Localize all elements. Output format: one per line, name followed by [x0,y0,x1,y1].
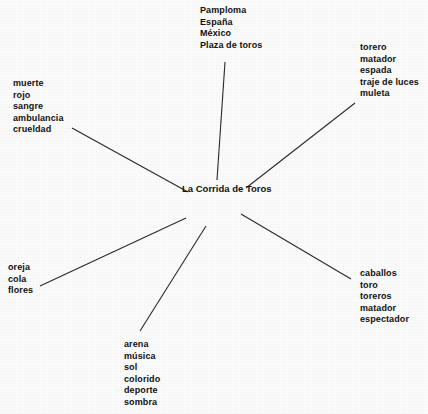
branch-term: música [124,351,160,363]
branch-term: sombra [124,397,160,409]
branch-term: cola [8,274,33,286]
branch-term: matador [360,54,419,66]
branch-term: arena [124,339,160,351]
branch-term: sangre [13,101,64,113]
branch-term: espectador [360,314,409,326]
branch-term: ambulancia [13,113,64,125]
spoke-line-top [217,62,225,180]
branch-term: flores [8,285,33,297]
spoke-line-bottom [140,226,206,331]
branch-term: torero [360,42,419,54]
branch-term: crueldad [13,124,64,136]
branch-term: sol [124,362,160,374]
branch-node-upper-right: torero matador espada traje de luces mul… [360,42,419,100]
branch-term: Pamploma [200,5,262,17]
branch-term: matador [360,303,409,315]
branch-term: traje de luces [360,77,419,89]
branch-term: caballos [360,268,409,280]
branch-term: Plaza de toros [200,40,262,52]
branch-term: deporte [124,385,160,397]
branch-term: oreja [8,262,33,274]
center-topic-node: La Corrida de Toros [182,183,246,195]
branch-node-upper-left: muerte rojo sangre ambulancia crueldad [13,78,64,136]
branch-node-lower-right: caballos toro toreros matador espectador [360,268,409,326]
spoke-line-lower-left [40,218,186,286]
branch-term: México [200,28,262,40]
branch-term: muerte [13,78,64,90]
branch-term: muleta [360,88,419,100]
center-topic-line: de [232,183,243,194]
branch-term: rojo [13,90,64,102]
branch-term: espada [360,65,419,77]
branch-term: España [200,17,262,29]
branch-node-lower-left: oreja cola flores [8,262,33,297]
branch-term: colorido [124,374,160,386]
branch-term: toro [360,280,409,292]
center-topic-line: La Corrida [182,183,230,194]
branch-term: toreros [360,291,409,303]
spoke-line-upper-right [246,103,355,188]
branch-node-top: Pamploma España México Plaza de toros [200,5,262,51]
branch-node-bottom: arena música sol colorido deporte sombra [124,339,160,409]
spoke-line-upper-left [72,128,188,192]
spider-diagram-canvas: Pamploma España México Plaza de toros to… [0,0,428,414]
spoke-line-lower-right [241,214,351,279]
center-topic-line: Toros [246,183,272,194]
